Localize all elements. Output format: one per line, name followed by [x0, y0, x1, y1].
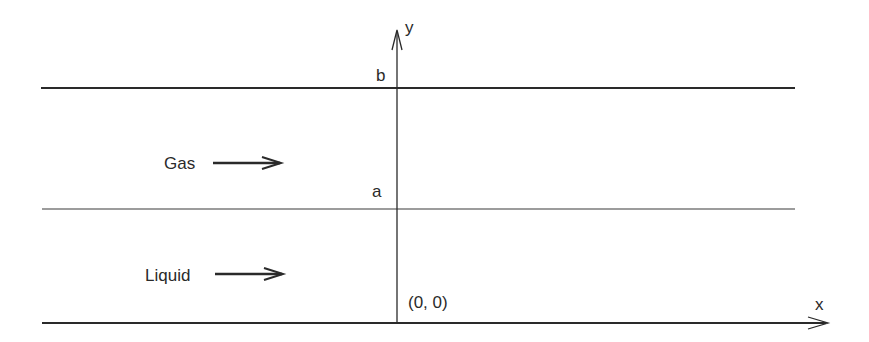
- liquid-label: Liquid: [145, 266, 190, 285]
- level-b-label: b: [376, 66, 385, 85]
- level-a-label: a: [372, 182, 382, 201]
- y-axis: [392, 30, 402, 323]
- two-phase-channel-diagram: y x (0, 0) b a Gas Liquid: [0, 0, 869, 342]
- gas-label: Gas: [164, 154, 195, 173]
- y-axis-label: y: [405, 18, 414, 37]
- origin-label: (0, 0): [408, 293, 448, 312]
- liquid-flow-indicator: Liquid: [145, 266, 283, 285]
- gas-flow-indicator: Gas: [164, 154, 281, 173]
- x-axis: [42, 317, 828, 329]
- x-axis-label: x: [815, 295, 824, 314]
